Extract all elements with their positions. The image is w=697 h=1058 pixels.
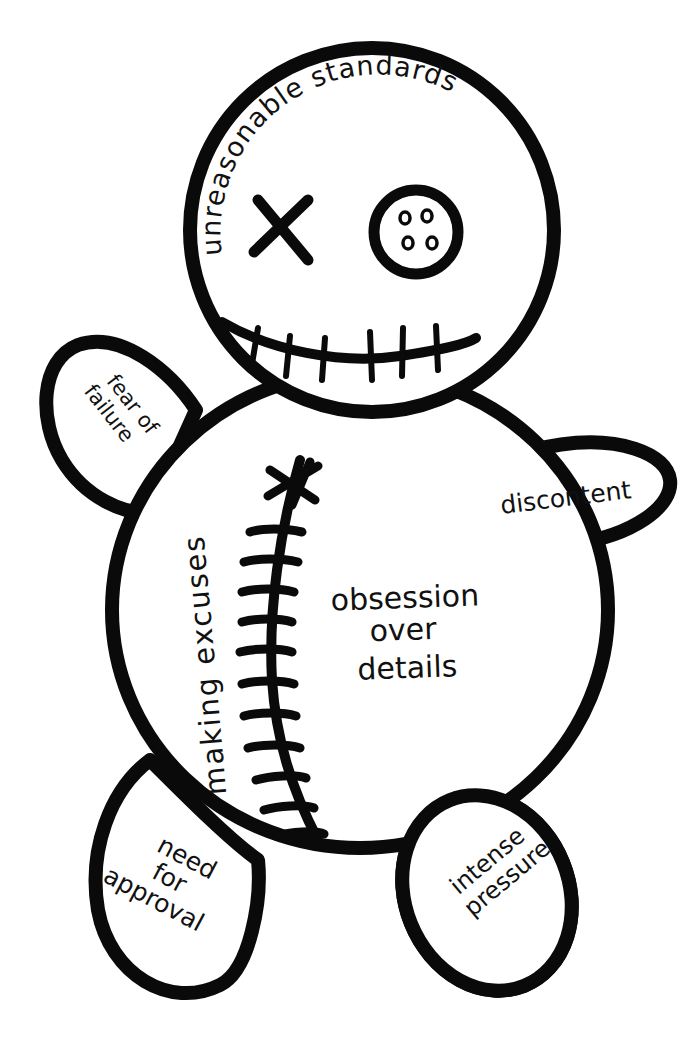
label-details: details	[357, 648, 458, 686]
doll-canvas: unreasonable standards fear of failure d…	[0, 0, 697, 1058]
label-over: over	[369, 611, 438, 648]
button-eye-icon	[374, 190, 458, 274]
voodoo-doll-illustration: unreasonable standards fear of failure d…	[0, 0, 697, 1058]
